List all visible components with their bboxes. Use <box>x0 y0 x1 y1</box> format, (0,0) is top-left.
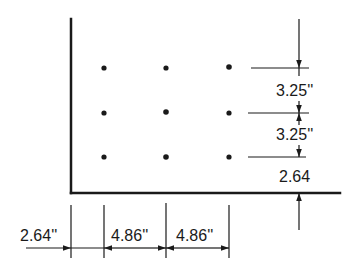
dimension-label-row3-edge: 2.64 <box>279 168 310 185</box>
vertical-dimension-group <box>248 19 309 230</box>
dimension-label-row1-row2: 3.25'' <box>276 82 313 99</box>
grid-points <box>101 64 231 160</box>
horizontal-dimension-labels: 2.64'' 4.86'' 4.86'' <box>20 227 213 244</box>
dimension-diagram: 3.25'' 3.25'' 2.64 2.64'' 4.86'' 4.86'' <box>0 0 355 272</box>
dimension-label-row2-row3: 3.25'' <box>276 126 313 143</box>
dimension-label-edge-col1: 2.64'' <box>20 227 57 244</box>
point-r1-c1 <box>101 65 106 70</box>
point-r3-c3 <box>226 154 231 159</box>
point-r3-c1 <box>101 154 106 159</box>
point-r2-c1 <box>101 110 106 115</box>
point-r2-c3 <box>226 110 231 115</box>
vertical-dimension-labels: 3.25'' 3.25'' 2.64 <box>276 82 313 185</box>
point-r1-c3 <box>226 64 232 70</box>
point-r1-c2 <box>163 65 168 70</box>
dimension-label-col1-col2: 4.86'' <box>111 227 148 244</box>
point-r3-c2 <box>163 154 169 160</box>
dimension-label-col2-col3: 4.86'' <box>176 227 213 244</box>
edges <box>71 19 340 193</box>
point-r2-c2 <box>163 109 169 115</box>
